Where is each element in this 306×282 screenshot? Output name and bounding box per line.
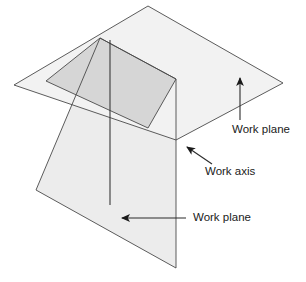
label-work-plane-bottom: Work plane (193, 211, 251, 223)
work-plane-diagram: Work plane Work axis Work plane (0, 0, 306, 282)
label-work-axis: Work axis (205, 165, 256, 177)
arrow-upleft-to-work-axis (187, 147, 212, 164)
diagram-canvas: Work plane Work axis Work plane (0, 0, 306, 282)
label-work-plane-top: Work plane (232, 123, 290, 135)
